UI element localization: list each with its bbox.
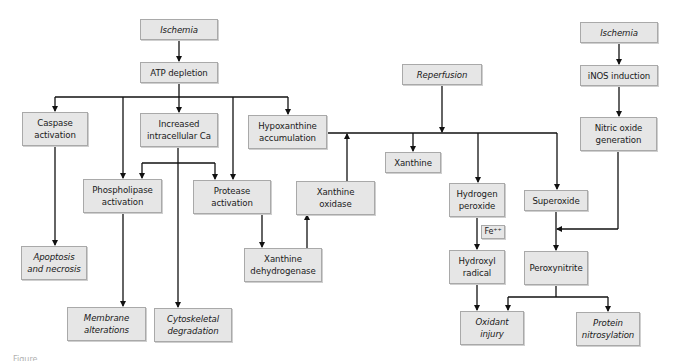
node-xanthine: Xanthine — [385, 152, 441, 173]
node-reperfusion: Reperfusion — [402, 64, 482, 85]
node-nitric-oxide-generation: Nitric oxide generation — [580, 117, 657, 151]
node-peroxynitrite: Peroxynitrite — [524, 251, 588, 285]
node-phospholipase-activation: Phospholipase activation — [83, 179, 162, 213]
node-membrane-alterations: Membrane alterations — [67, 307, 146, 341]
node-xanthine-oxidase: Xanthine oxidase — [296, 181, 375, 215]
node-superoxide: Superoxide — [524, 190, 588, 211]
node-caspase-activation: Caspase activation — [22, 112, 88, 146]
node-oxidant-injury: Oxidant injury — [460, 311, 524, 345]
node-hydroxyl-radical: Hydroxyl radical — [449, 250, 505, 284]
node-inos-induction: iNOS induction — [580, 65, 658, 86]
node-protease-activation: Protease activation — [193, 180, 271, 214]
node-hydrogen-peroxide: Hydrogen peroxide — [449, 183, 505, 217]
node-fe-catalyst: Fe⁺⁺ — [481, 225, 505, 239]
node-apoptosis-necrosis: Apoptosis and necrosis — [21, 246, 87, 280]
node-atp-depletion: ATP depletion — [140, 62, 218, 83]
node-protein-nitrosylation: Protein nitrosylation — [576, 312, 640, 346]
node-hypoxanthine-accumulation: Hypoxanthine accumulation — [248, 115, 327, 149]
node-ischemia-right: Ischemia — [580, 22, 658, 43]
node-cytoskeletal-degradation: Cytoskeletal degradation — [154, 308, 232, 342]
ischemia-reperfusion-diagram: Ischemia ATP depletion Caspase activatio… — [0, 0, 677, 361]
node-xanthine-dehydrogenase: Xanthine dehydrogenase — [244, 248, 322, 282]
node-ischemia-left: Ischemia — [140, 19, 218, 40]
figure-caption: Figure — [13, 355, 133, 361]
node-increased-intracellular-ca: Increased intracellular Ca — [140, 113, 218, 147]
